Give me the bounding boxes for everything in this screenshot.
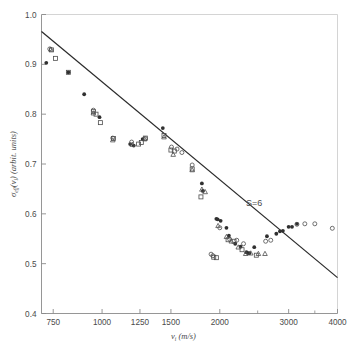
marker-filled-circle <box>66 70 70 74</box>
marker-filled-circle <box>281 229 285 233</box>
marker-filled-circle <box>82 92 86 96</box>
marker-filled-circle <box>252 245 256 249</box>
annotation-label: S=6 <box>246 198 262 208</box>
marker-filled-circle <box>225 226 229 230</box>
y-tick-label: 0.7 <box>25 160 37 169</box>
y-axis-label: σeff(vi) (arbit. units) <box>8 131 19 197</box>
x-tick-label: 1250 <box>131 318 150 327</box>
marker-filled-circle <box>219 219 223 223</box>
y-tick-label: 0.6 <box>25 210 37 219</box>
plot-background <box>0 0 356 356</box>
y-tick-label: 0.5 <box>25 260 37 269</box>
y-tick-label: 0.9 <box>25 60 37 69</box>
x-axis-label: vi (m/s) <box>171 331 196 342</box>
y-tick-label: 0.4 <box>25 310 37 319</box>
x-tick-label: 1000 <box>93 318 112 327</box>
marker-filled-circle <box>274 232 278 236</box>
marker-filled-circle <box>290 225 294 229</box>
x-tick-label: 3000 <box>280 318 299 327</box>
y-tick-label: 1.0 <box>25 11 37 20</box>
marker-filled-circle <box>161 126 165 130</box>
x-tick-label: 750 <box>46 318 60 327</box>
scatter-plot: 0.40.50.60.70.80.91.07501000125015002000… <box>0 0 356 356</box>
marker-filled-circle <box>44 61 48 65</box>
y-tick-label: 0.8 <box>25 110 37 119</box>
marker-filled-circle <box>200 182 204 186</box>
figure-container: 0.40.50.60.70.80.91.07501000125015002000… <box>0 0 356 356</box>
x-tick-label: 2000 <box>211 318 230 327</box>
marker-filled-circle <box>287 225 291 229</box>
x-tick-label: 1500 <box>162 318 181 327</box>
marker-filled-circle <box>265 234 269 238</box>
x-tick-label: 4000 <box>328 318 347 327</box>
